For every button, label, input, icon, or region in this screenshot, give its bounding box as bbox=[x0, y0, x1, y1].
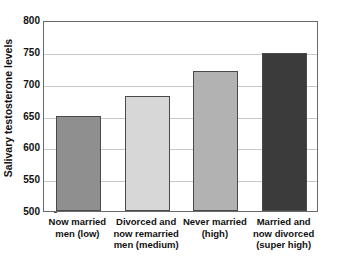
y-axis-title-text: Salivary testosterone levels bbox=[2, 38, 14, 176]
y-axis-tick-label: 750 bbox=[14, 48, 40, 58]
x-axis-category-label-line: (super high) bbox=[249, 239, 318, 251]
y-axis-tick-label: 600 bbox=[14, 143, 40, 153]
x-axis-category-label-line: men (medium) bbox=[112, 239, 181, 251]
y-axis-tick-label: 550 bbox=[14, 175, 40, 185]
y-axis-tick-label: 800 bbox=[14, 16, 40, 26]
x-axis-category-label-line: Divorced and bbox=[112, 216, 181, 228]
y-axis-tick-mark bbox=[54, 212, 57, 213]
x-axis-category-label-line: now remarried bbox=[112, 228, 181, 240]
y-axis-tick-label: 700 bbox=[14, 80, 40, 90]
bar-chart-figure: Salivary testosterone levels 50055060065… bbox=[0, 0, 341, 265]
plot-area bbox=[43, 21, 318, 212]
x-axis-category-label: Divorced andnow remarriedmen (medium) bbox=[112, 216, 181, 251]
y-axis-tick-label: 650 bbox=[14, 112, 40, 122]
x-axis-category-label-line: Married and bbox=[249, 216, 318, 228]
x-axis-category-label: Never married(high) bbox=[181, 216, 250, 239]
y-axis-tick-labels: 500550600650700750800 bbox=[14, 21, 40, 212]
x-axis-category-label-line: Now married bbox=[43, 216, 112, 228]
x-axis-category-label: Now marriedmen (low) bbox=[43, 216, 112, 239]
bar bbox=[56, 116, 101, 212]
x-axis-category-labels: Now marriedmen (low)Divorced andnow rema… bbox=[43, 216, 318, 265]
x-axis-category-label-line: (high) bbox=[181, 228, 250, 240]
y-axis-tick-label: 500 bbox=[14, 207, 40, 217]
x-axis-category-label: Married andnow divorced(super high) bbox=[249, 216, 318, 251]
bar bbox=[262, 53, 307, 211]
bar bbox=[125, 96, 170, 211]
x-axis-category-label-line: Never married bbox=[181, 216, 250, 228]
x-axis-category-label-line: men (low) bbox=[43, 228, 112, 240]
bar bbox=[193, 71, 238, 211]
bars-group bbox=[44, 22, 317, 211]
x-axis-category-label-line: now divorced bbox=[249, 228, 318, 240]
